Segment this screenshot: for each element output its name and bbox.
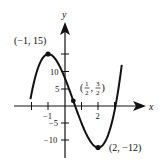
min-point-marker: [95, 145, 100, 150]
svg-text:(: (: [80, 82, 84, 94]
inflection-point-label: ( 1 2 , 3 2 ): [80, 80, 105, 97]
cubic-curve: [30, 54, 121, 147]
y-tick-label-neg5: −5: [49, 118, 58, 128]
y-tick-label-neg10: −10: [44, 135, 57, 145]
max-point-marker: [45, 51, 50, 56]
min-point-label: (2, −12): [109, 142, 141, 154]
inflection-point-marker: [71, 98, 76, 103]
function-graph: x y −1 2 10 5 −5 −10 (−1, 15) (2, −12) (…: [0, 0, 160, 167]
svg-text:): ): [102, 82, 105, 94]
svg-text:2: 2: [85, 89, 89, 97]
y-tick-label-5: 5: [55, 84, 59, 94]
y-axis-label: y: [61, 9, 67, 20]
max-point-label: (−1, 15): [14, 35, 46, 47]
svg-text:3: 3: [96, 80, 100, 88]
svg-text:2: 2: [96, 89, 100, 97]
svg-text:,: ,: [91, 82, 94, 93]
x-tick-label-2: 2: [96, 111, 100, 121]
svg-text:1: 1: [85, 80, 89, 88]
y-tick-label-10: 10: [50, 67, 59, 77]
x-axis-label: x: [148, 101, 154, 112]
